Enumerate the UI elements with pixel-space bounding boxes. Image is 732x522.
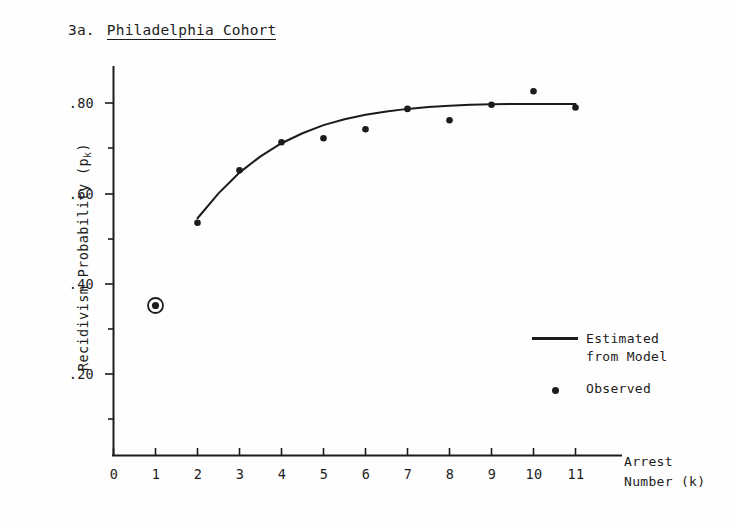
ytick-label-80: .80 <box>48 95 94 111</box>
legend-row-observed: Observed <box>524 380 667 398</box>
legend: Estimated from Model Observed <box>524 330 667 412</box>
legend-label-estimated: Estimated from Model <box>586 330 667 366</box>
xtick-label-5: 5 <box>309 466 339 482</box>
x-axis-title: Arrest Number (k) <box>624 452 705 492</box>
observed-point <box>488 102 495 109</box>
xtick-label-8: 8 <box>435 466 465 482</box>
observed-point <box>572 104 579 111</box>
xtick-label-3: 3 <box>225 466 255 482</box>
observed-point <box>320 135 327 142</box>
x-axis-title-line1: Arrest <box>624 452 705 472</box>
legend-label-observed: Observed <box>586 380 651 398</box>
figure-container: 3a.Philadelphia Cohort Recidivism Probab… <box>0 0 732 522</box>
ytick-label-40: .40 <box>48 276 94 292</box>
observed-point <box>236 167 243 174</box>
observed-point <box>278 139 285 146</box>
xtick-label-7: 7 <box>393 466 423 482</box>
legend-line-swatch-icon <box>524 330 586 340</box>
legend-dot-swatch-icon <box>524 380 586 394</box>
x-axis-title-line2: Number (k) <box>624 472 705 492</box>
estimated-model-curve <box>198 104 576 218</box>
observed-point <box>194 219 201 226</box>
xtick-label-6: 6 <box>351 466 381 482</box>
xtick-label-2: 2 <box>183 466 213 482</box>
xtick-label-0: 0 <box>99 466 129 482</box>
xtick-label-10: 10 <box>519 466 549 482</box>
xtick-label-11: 11 <box>561 466 591 482</box>
ytick-label-60: .60 <box>48 186 94 202</box>
observed-point <box>404 106 411 113</box>
ytick-label-20: .20 <box>48 366 94 382</box>
observed-point <box>530 88 537 95</box>
xtick-label-9: 9 <box>477 466 507 482</box>
observed-point <box>362 126 369 133</box>
xtick-label-1: 1 <box>141 466 171 482</box>
observed-point <box>446 117 453 124</box>
legend-row-estimated: Estimated from Model <box>524 330 667 366</box>
observed-point <box>152 302 159 309</box>
xtick-label-4: 4 <box>267 466 297 482</box>
plot-area <box>0 0 732 522</box>
